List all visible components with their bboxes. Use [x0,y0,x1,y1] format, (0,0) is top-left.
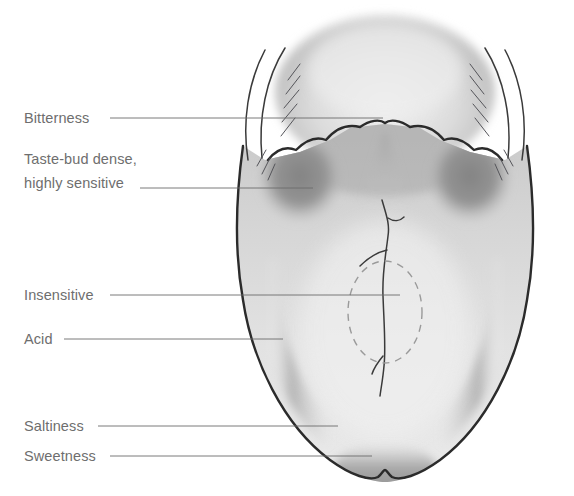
papillae-patch-right [430,137,510,223]
label-acid: Acid [24,331,53,347]
label-texts: Bitterness Taste-bud dense, highly sensi… [24,110,137,464]
tongue-taste-map-figure: Bitterness Taste-bud dense, highly sensi… [0,0,574,496]
papillae-patch-left [260,137,340,223]
epiglottis-highlight [307,22,463,118]
label-taste-bud-dense-line1: Taste-bud dense, [24,151,137,167]
label-bitterness: Bitterness [24,110,89,126]
tongue-diagram: Bitterness Taste-bud dense, highly sensi… [0,0,574,496]
label-taste-bud-dense-line2: highly sensitive [24,175,124,191]
label-insensitive: Insensitive [24,287,94,303]
arch-outer-right [505,50,524,160]
label-sweetness: Sweetness [24,448,96,464]
label-saltiness: Saltiness [24,418,84,434]
arch-outer-left [246,50,265,160]
